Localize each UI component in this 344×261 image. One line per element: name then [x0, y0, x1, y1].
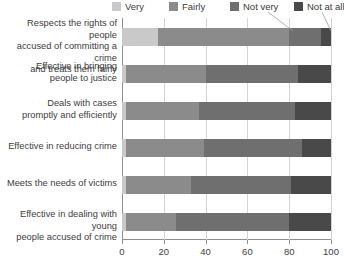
tick-label: 100	[323, 246, 339, 257]
tick-label: 80	[284, 246, 295, 257]
tick-mark	[122, 240, 123, 244]
tick-label: 40	[200, 246, 211, 257]
x-axis-ticks: 020406080100	[0, 0, 344, 261]
tick-mark	[206, 240, 207, 244]
tick-label: 0	[119, 246, 124, 257]
tick-label: 20	[159, 246, 170, 257]
tick-mark	[331, 240, 332, 244]
tick-mark	[164, 240, 165, 244]
tick-label: 60	[242, 246, 253, 257]
stacked-bar-chart: VeryFairlyNot veryNot at all Respects th…	[0, 0, 344, 261]
tick-mark	[289, 240, 290, 244]
tick-mark	[247, 240, 248, 244]
